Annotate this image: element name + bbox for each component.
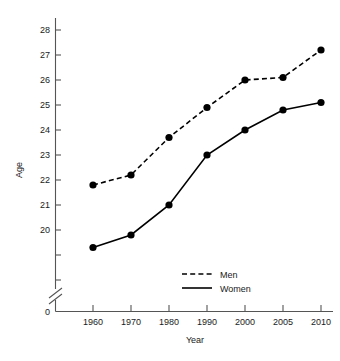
y-tick-label: 24	[40, 125, 50, 135]
legend-label-men: Men	[220, 270, 238, 280]
y-origin-label: 0	[45, 307, 50, 317]
x-tick-label: 2010	[311, 317, 331, 327]
series-markers-women	[89, 99, 324, 251]
y-tick-label: 27	[40, 50, 50, 60]
x-tick-labels: 1960 1970 1980 1990 2000 2005 2010	[83, 317, 331, 327]
data-point	[89, 181, 96, 188]
x-tick-label: 1980	[159, 317, 179, 327]
data-point	[165, 201, 172, 208]
data-point	[317, 99, 324, 106]
x-tick-label: 1970	[121, 317, 141, 327]
y-tick-label: 20	[40, 225, 50, 235]
data-point	[241, 126, 248, 133]
figure-container: 28 27 26 25 24 23 22 21 20 0 1960 1970 1…	[0, 0, 340, 361]
y-tick-group	[56, 30, 62, 280]
x-tick-label: 2000	[235, 317, 255, 327]
data-point	[127, 171, 134, 178]
x-tick-label: 1960	[83, 317, 103, 327]
x-tick-label: 1990	[197, 317, 217, 327]
data-point	[279, 106, 286, 113]
x-tick-label: 2005	[273, 317, 293, 327]
data-point	[165, 134, 172, 141]
line-chart: 28 27 26 25 24 23 22 21 20 0 1960 1970 1…	[0, 0, 340, 361]
y-tick-label: 26	[40, 75, 50, 85]
caption-cutoff	[0, 353, 340, 361]
legend: Men Women	[182, 270, 251, 294]
data-point	[203, 151, 210, 158]
data-point	[203, 104, 210, 111]
legend-label-women: Women	[220, 284, 251, 294]
data-point	[317, 46, 324, 53]
data-point	[279, 74, 286, 81]
y-tick-label: 28	[40, 25, 50, 35]
data-point	[241, 76, 248, 83]
y-tick-label: 25	[40, 100, 50, 110]
data-point	[127, 231, 134, 238]
y-axis-title: Age	[14, 162, 24, 178]
series-line-women	[93, 103, 321, 248]
x-axis-title: Year	[186, 335, 204, 345]
y-tick-label: 23	[40, 150, 50, 160]
x-tick-group	[93, 305, 321, 312]
y-tick-labels: 28 27 26 25 24 23 22 21 20 0	[40, 25, 50, 317]
y-tick-label: 21	[40, 200, 50, 210]
series-markers-men	[89, 46, 324, 188]
series-line-men	[93, 50, 321, 185]
y-tick-label: 22	[40, 175, 50, 185]
data-point	[89, 244, 96, 251]
